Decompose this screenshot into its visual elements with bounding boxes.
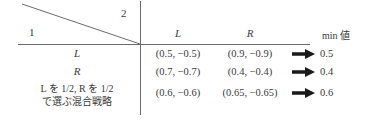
column-player-label: 2 — [121, 7, 127, 19]
min-value-row-R: 0.4 — [320, 66, 360, 77]
column-header-min-value: min 値 — [300, 27, 372, 42]
row-player-label: 1 — [29, 26, 35, 38]
column-header-R: R — [214, 27, 286, 39]
column-header-L: L — [142, 27, 214, 39]
mixed-strategy-line-1: L を 1/2, R を 1/2 — [18, 82, 136, 95]
payoff-cell-RL: (0.7, −0.7) — [142, 66, 214, 77]
payoff-cell-LL: (0.5, −0.5) — [142, 48, 214, 59]
header-horizontal-rule — [18, 44, 310, 45]
right-arrow-icon — [292, 48, 316, 60]
min-value-row-mixed: 0.6 — [320, 87, 360, 98]
payoff-cell-MixL: (0.6, −0.6) — [142, 87, 214, 98]
payoff-cell-MixR: (0.65, −0.65) — [214, 87, 286, 98]
mixed-strategy-line-2: で選ぶ混合戦略 — [18, 95, 136, 108]
row-label-vertical-rule — [140, 1, 141, 115]
payoff-cell-RR: (0.4, −0.4) — [214, 66, 286, 77]
payoff-cell-LR: (0.9, −0.9) — [214, 48, 286, 59]
right-arrow-icon — [292, 87, 316, 99]
payoff-matrix-figure: 1 2 L R min 値 L R L を 1/2, R を 1/2 で選ぶ混合… — [0, 0, 376, 122]
row-header-R: R — [18, 65, 136, 77]
min-value-row-L: 0.5 — [320, 48, 360, 59]
row-header-mixed-strategy: L を 1/2, R を 1/2 で選ぶ混合戦略 — [18, 82, 136, 108]
row-header-L: L — [18, 47, 136, 59]
right-arrow-icon — [292, 66, 316, 78]
